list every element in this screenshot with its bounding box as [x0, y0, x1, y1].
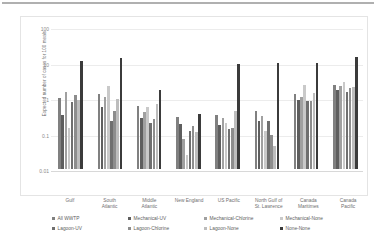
legend-item[interactable]: Lagoon-None: [204, 226, 239, 231]
bar: [159, 90, 162, 169]
x-axis-label-canada-pacific: CanadaPacific: [324, 198, 372, 209]
legend-label: Lagoon-Chlorine: [134, 226, 169, 231]
y-tick-10: 10: [27, 62, 49, 68]
legend-swatch-icon: [280, 217, 283, 220]
legend-item[interactable]: Mechanical-None: [280, 216, 323, 221]
x-label-line: Canada: [340, 198, 357, 203]
y-tick-0.01: 0.01: [27, 168, 49, 174]
x-label-line: New England: [175, 198, 204, 203]
bar: [80, 61, 83, 169]
legend-swatch-icon: [204, 217, 207, 220]
plot-area: Expected number of cases for 100 meals 0…: [20, 16, 368, 196]
x-label-line: Gulf: [65, 198, 74, 203]
legend-item[interactable]: Lagoon-Chlorine: [128, 226, 169, 231]
legend-item[interactable]: All WWTP: [52, 216, 79, 221]
bar-group: [130, 17, 169, 195]
legend-swatch-icon: [52, 217, 55, 220]
bar: [355, 57, 358, 169]
x-label-line: Atlantic: [102, 204, 118, 209]
y-tick-0.1: 0.1: [27, 133, 49, 139]
chart-legend: All WWTPMechanical-UVMechanical-Chlorine…: [52, 216, 352, 238]
x-label-line: Middle: [142, 198, 156, 203]
bar-group: [90, 17, 129, 195]
x-label-line: South: [103, 198, 116, 203]
legend-label: Mechanical-None: [286, 216, 323, 221]
bar: [237, 64, 240, 169]
bar: [198, 114, 201, 169]
bar: [120, 58, 123, 169]
x-axis-category-labels: GulfSouthAtlanticMiddleAtlanticNew Engla…: [50, 198, 368, 214]
y-tick-1: 1: [27, 97, 49, 103]
x-label-line: Canada: [300, 198, 317, 203]
x-label-line: US Pacific: [218, 198, 240, 203]
legend-item[interactable]: Mechanical-UV: [128, 216, 166, 221]
bar-group: [287, 17, 326, 195]
bar: [277, 63, 280, 169]
legend-swatch-icon: [204, 227, 207, 230]
legend-item[interactable]: None-None: [280, 226, 310, 231]
legend-item[interactable]: Mechanical-Chlorine: [204, 216, 253, 221]
legend-label: All WWTP: [58, 216, 80, 221]
legend-swatch-icon: [280, 227, 283, 230]
bar-series-layer: [51, 17, 363, 195]
bar-group: [247, 17, 286, 195]
legend-item[interactable]: Lagoon-UV: [52, 226, 82, 231]
chart-figure: Expected number of cases for 100 meals 0…: [0, 0, 376, 242]
legend-swatch-icon: [128, 227, 131, 230]
x-label-line: Maritimes: [298, 204, 319, 209]
bar: [316, 63, 319, 169]
bar-group: [169, 17, 208, 195]
bar-group: [326, 17, 365, 195]
y-tick-100: 100: [27, 26, 49, 32]
legend-label: Mechanical-Chlorine: [210, 216, 254, 221]
x-label-line: St. Lawrence: [255, 204, 283, 209]
bar-group: [51, 17, 90, 195]
y-axis-title: Expected number of cases for 100 meals: [42, 15, 47, 133]
legend-label: None-None: [286, 226, 311, 231]
bar-group: [208, 17, 247, 195]
legend-label: Lagoon-UV: [58, 226, 82, 231]
x-label-line: Pacific: [341, 204, 355, 209]
legend-label: Mechanical-UV: [134, 216, 167, 221]
x-label-line: North Gulf of: [255, 198, 282, 203]
legend-label: Lagoon-None: [210, 226, 239, 231]
legend-swatch-icon: [128, 217, 131, 220]
x-label-line: Atlantic: [142, 204, 158, 209]
top-divider-rule: [2, 2, 374, 4]
legend-swatch-icon: [52, 227, 55, 230]
